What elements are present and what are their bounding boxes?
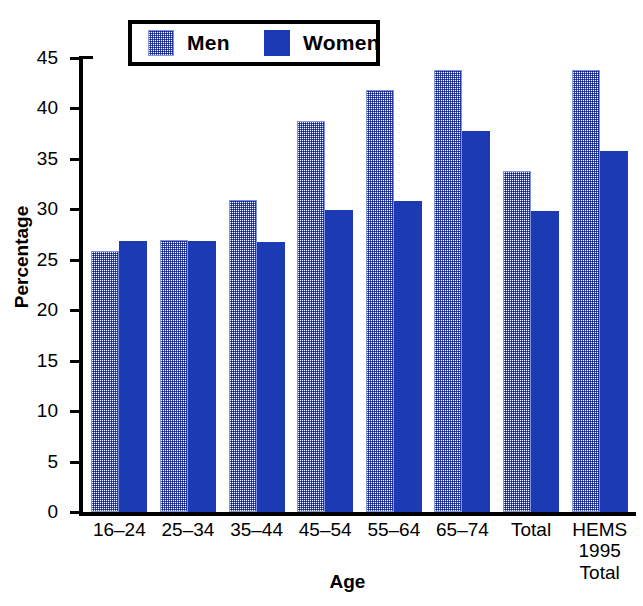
bar-women-2 bbox=[257, 242, 285, 512]
x-axis-line bbox=[79, 512, 636, 516]
y-tick-45 bbox=[70, 57, 83, 60]
legend-swatch-women-icon bbox=[264, 30, 290, 56]
y-axis-line bbox=[79, 56, 83, 516]
bar-men-4 bbox=[366, 90, 394, 512]
y-tick-35 bbox=[70, 158, 83, 161]
legend-label-men: Men bbox=[187, 31, 230, 55]
bar-men-1 bbox=[160, 240, 188, 512]
bar-women-1 bbox=[188, 241, 216, 512]
bar-women-0 bbox=[119, 241, 147, 512]
legend-entry-women: Women bbox=[264, 30, 380, 56]
legend-label-women: Women bbox=[303, 31, 380, 55]
legend-entry-men: Men bbox=[148, 30, 230, 56]
y-tick-25 bbox=[70, 259, 83, 262]
bar-men-5 bbox=[434, 70, 462, 512]
y-tick-20 bbox=[70, 309, 83, 312]
y-tick-5 bbox=[70, 461, 83, 464]
bar-women-6 bbox=[531, 211, 559, 512]
chart-legend: Men Women bbox=[128, 20, 380, 66]
y-tick-30 bbox=[70, 208, 83, 211]
bar-women-3 bbox=[325, 210, 353, 512]
y-tick-40 bbox=[70, 107, 83, 110]
y-tick-0 bbox=[70, 511, 83, 514]
bar-women-7 bbox=[600, 151, 628, 512]
bar-men-0 bbox=[91, 251, 119, 512]
bar-women-4 bbox=[394, 201, 422, 512]
bar-chart: Men Women 454035302520151050 16–2425–343… bbox=[0, 0, 643, 606]
bar-men-2 bbox=[229, 200, 257, 512]
bar-men-3 bbox=[297, 121, 325, 512]
bar-men-7 bbox=[572, 70, 600, 512]
y-tick-15 bbox=[70, 360, 83, 363]
y-tick-10 bbox=[70, 410, 83, 413]
bar-men-6 bbox=[503, 171, 531, 512]
legend-swatch-men-icon bbox=[148, 30, 174, 56]
bar-women-5 bbox=[462, 131, 490, 512]
